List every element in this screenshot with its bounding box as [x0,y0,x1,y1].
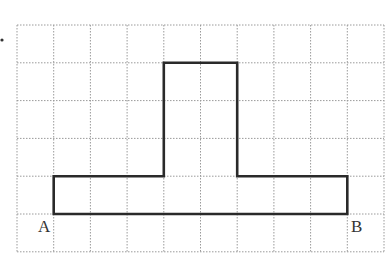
point-label-a: A [38,217,51,236]
diagram-canvas: A B [0,0,392,265]
dotted-grid [17,25,384,252]
bullet-marker [0,38,3,41]
point-label-b: B [351,217,362,236]
